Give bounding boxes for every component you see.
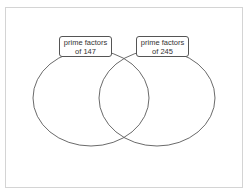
right-set-circle: [99, 50, 215, 146]
venn-diagram: [0, 0, 249, 192]
left-label-line1: prime factors: [60, 38, 111, 47]
left-set-label: prime factors of 147: [59, 36, 112, 57]
right-label-line1: prime factors: [137, 38, 188, 47]
left-set-circle: [33, 50, 149, 146]
right-set-label: prime factors of 245: [136, 36, 189, 57]
right-label-line2: of 245: [137, 47, 188, 56]
left-label-line2: of 147: [60, 47, 111, 56]
